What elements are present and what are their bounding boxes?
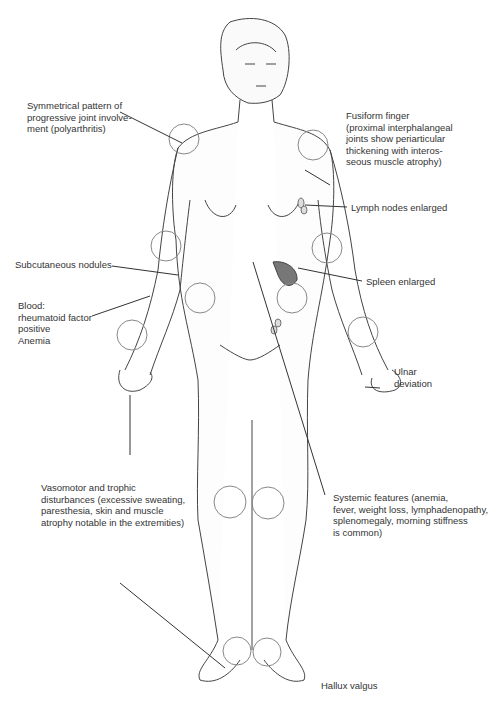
leader-lines — [92, 112, 380, 668]
label-lymph-nodes: Lymph nodes enlarged — [351, 202, 447, 214]
label-systemic-features: Systemic features (anemia, fever, weight… — [333, 492, 488, 538]
joint-circles — [117, 124, 378, 666]
label-ulnar-deviation: Ulnar deviation — [394, 366, 432, 389]
label-polyarthritis: Symmetrical pattern of progressive joint… — [27, 100, 132, 135]
label-subcutaneous-nodules: Subcutaneous nodules — [15, 259, 112, 271]
label-blood: Blood: rheumatoid factor positive Anemia — [18, 300, 92, 346]
label-vasomotor: Vasomotor and trophic disturbances (exce… — [41, 482, 185, 528]
label-fusiform-finger: Fusiform finger (proximal interphalangea… — [346, 110, 453, 168]
label-spleen: Spleen enlarged — [366, 276, 435, 288]
rheumatoid-arthritis-diagram: Symmetrical pattern of progressive joint… — [0, 0, 494, 710]
label-hallux-valgus: Hallux valgus — [321, 680, 378, 692]
